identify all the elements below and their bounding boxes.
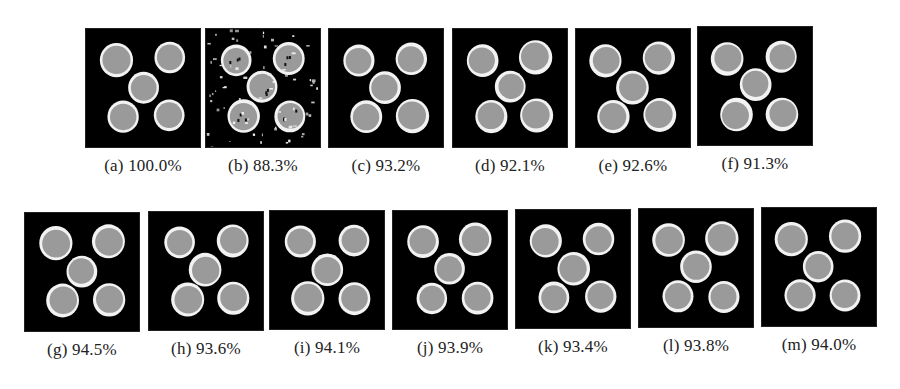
segmentation-image xyxy=(638,208,754,328)
segmentation-image xyxy=(205,28,321,148)
subfigure-a: (a) 100.0% xyxy=(85,28,201,176)
subfigure-caption: (g) 94.5% xyxy=(24,340,140,360)
segmentation-image xyxy=(269,210,385,330)
subfigure-g: (g) 94.5% xyxy=(24,212,140,360)
subfigure-b: (b) 88.3% xyxy=(205,28,321,176)
subfigure-caption: (m) 94.0% xyxy=(761,335,877,355)
subfigure-l: (l) 93.8% xyxy=(638,208,754,356)
segmentation-image xyxy=(575,28,691,148)
subfigure-caption: (c) 93.2% xyxy=(328,156,444,176)
subfigure-caption: (i) 94.1% xyxy=(269,338,385,358)
subfigure-caption: (d) 92.1% xyxy=(452,156,568,176)
subfigure-j: (j) 93.9% xyxy=(392,210,508,358)
subfigure-caption: (e) 92.6% xyxy=(575,156,691,176)
subfigure-caption: (l) 93.8% xyxy=(638,336,754,356)
subfigure-f: (f) 91.3% xyxy=(697,26,813,174)
segmentation-image xyxy=(515,209,631,329)
subfigure-caption: (h) 93.6% xyxy=(148,339,264,359)
subfigure-e: (e) 92.6% xyxy=(575,28,691,176)
subfigure-d: (d) 92.1% xyxy=(452,28,568,176)
segmentation-image xyxy=(328,28,444,148)
subfigure-c: (c) 93.2% xyxy=(328,28,444,176)
subfigure-caption: (j) 93.9% xyxy=(392,338,508,358)
segmentation-image xyxy=(24,212,140,332)
subfigure-caption: (k) 93.4% xyxy=(515,337,631,357)
segmentation-image xyxy=(452,28,568,148)
subfigure-caption: (b) 88.3% xyxy=(205,156,321,176)
subfigure-h: (h) 93.6% xyxy=(148,211,264,359)
segmentation-image xyxy=(761,207,877,327)
segmentation-image xyxy=(697,26,813,146)
subfigure-k: (k) 93.4% xyxy=(515,209,631,357)
subfigure-caption: (f) 91.3% xyxy=(697,154,813,174)
subfigure-m: (m) 94.0% xyxy=(761,207,877,355)
segmentation-image xyxy=(85,28,201,148)
segmentation-image xyxy=(392,210,508,330)
subfigure-caption: (a) 100.0% xyxy=(85,156,201,176)
segmentation-image xyxy=(148,211,264,331)
subfigure-i: (i) 94.1% xyxy=(269,210,385,358)
